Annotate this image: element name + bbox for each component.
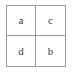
grid-cell-label-d: d [18, 46, 24, 57]
two-by-two-grid: a c d b [6, 5, 66, 67]
grid-cell-top-right: c [36, 6, 65, 36]
grid-cell-label-b: b [48, 46, 54, 57]
grid-cell-label-a: a [19, 15, 24, 26]
grid-cell-bottom-left: d [7, 36, 36, 66]
grid-cell-label-c: c [48, 15, 53, 26]
grid-cell-top-left: a [7, 6, 36, 36]
grid-cell-bottom-right: b [36, 36, 65, 66]
